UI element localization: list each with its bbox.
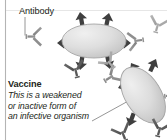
vaccine-description-line-3: an infective organism bbox=[8, 111, 89, 122]
vaccine-label: Vaccine bbox=[8, 79, 42, 89]
organism-bottom-body bbox=[111, 59, 167, 131]
organism-bottom-group bbox=[111, 57, 167, 131]
antibody-label: Antibody bbox=[19, 6, 54, 16]
antibody-glyph-labelled bbox=[26, 27, 42, 47]
vaccine-description-line-2: or inactive form of bbox=[8, 101, 76, 112]
vaccine-description-line-1: This is a weakened bbox=[8, 90, 82, 101]
vaccine-antibody-diagram: Antibody Vaccine This is a weakened or i… bbox=[0, 0, 167, 140]
organism-top-group bbox=[57, 11, 131, 71]
organism-top-body bbox=[62, 24, 126, 58]
